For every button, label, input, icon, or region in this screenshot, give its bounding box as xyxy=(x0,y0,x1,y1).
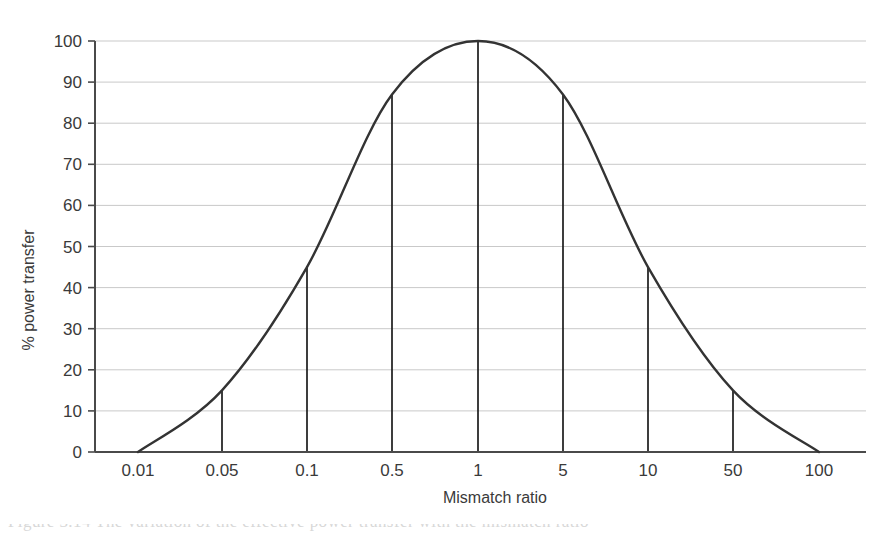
x-tick-label: 0.05 xyxy=(205,461,238,480)
y-tick-label: 0 xyxy=(73,443,82,462)
x-tick-label: 5 xyxy=(558,461,567,480)
x-tick-label: 50 xyxy=(724,461,743,480)
figure-caption: Figure 3.14 The variation of the effecti… xyxy=(8,524,589,532)
chart-page: 0102030405060708090100 0.010.050.10.5151… xyxy=(0,0,890,540)
power-transfer-chart: 0102030405060708090100 0.010.050.10.5151… xyxy=(0,0,890,540)
y-tick-label: 70 xyxy=(63,155,82,174)
y-tick-label-group: 0102030405060708090100 xyxy=(54,32,82,462)
y-tick-label: 90 xyxy=(63,73,82,92)
x-tick-label: 0.01 xyxy=(121,461,154,480)
y-tick-mark-group xyxy=(88,41,95,452)
y-tick-label: 30 xyxy=(63,320,82,339)
y-tick-label: 80 xyxy=(63,114,82,133)
x-tick-label: 0.1 xyxy=(295,461,319,480)
x-tick-label: 10 xyxy=(639,461,658,480)
x-tick-label-group: 0.010.050.10.5151050100 xyxy=(121,461,833,480)
y-tick-label: 100 xyxy=(54,32,82,51)
figure-caption-strip: Figure 3.14 The variation of the effecti… xyxy=(0,524,890,540)
y-tick-label: 60 xyxy=(63,196,82,215)
y-tick-label: 40 xyxy=(63,279,82,298)
gridline-group xyxy=(95,41,866,452)
x-tick-label: 1 xyxy=(473,461,482,480)
x-axis-title: Mismatch ratio xyxy=(443,489,547,506)
x-tick-label: 0.5 xyxy=(380,461,404,480)
y-tick-label: 10 xyxy=(63,402,82,421)
y-tick-label: 20 xyxy=(63,361,82,380)
x-tick-label: 100 xyxy=(805,461,833,480)
y-tick-label: 50 xyxy=(63,238,82,257)
y-axis-title: % power transfer xyxy=(20,229,37,351)
